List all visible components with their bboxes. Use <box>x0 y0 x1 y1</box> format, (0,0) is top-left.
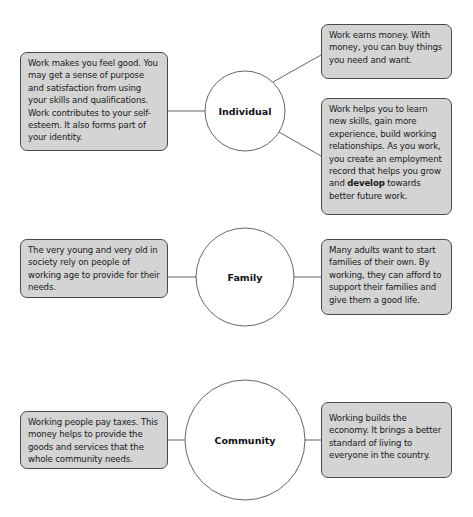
family-left-box: The very young and very old in society r… <box>20 239 168 298</box>
individual-right-skills-bold-term: develop <box>347 178 384 188</box>
connector-individual-right-bottom <box>279 132 321 156</box>
individual-right-money-text: Work earns money. With money, you can bu… <box>329 30 442 65</box>
family-right-text: Many adults want to start families of th… <box>329 245 441 305</box>
family-right-box: Many adults want to start families of th… <box>321 239 452 315</box>
community-left-box: Working people pay taxes. This money hel… <box>20 411 168 469</box>
individual-left-box: Work makes you feel good. You may get a … <box>20 52 168 151</box>
community-left-text: Working people pay taxes. This money hel… <box>28 417 158 464</box>
community-right-text: Working builds the economy. It brings a … <box>329 413 441 460</box>
individual-right-skills-text-start: Work helps you to learn new skills, gain… <box>329 104 442 188</box>
community-right-box: Working builds the economy. It brings a … <box>321 402 452 478</box>
individual-right-box-money: Work earns money. With money, you can bu… <box>321 24 452 79</box>
individual-left-text: Work makes you feel good. You may get a … <box>28 58 158 142</box>
family-left-text: The very young and very old in society r… <box>28 245 160 292</box>
node-individual-label: Individual <box>205 71 285 151</box>
individual-right-box-skills: Work helps you to learn new skills, gain… <box>321 98 452 215</box>
node-community-label: Community <box>185 380 305 500</box>
node-family-label: Family <box>196 228 294 326</box>
